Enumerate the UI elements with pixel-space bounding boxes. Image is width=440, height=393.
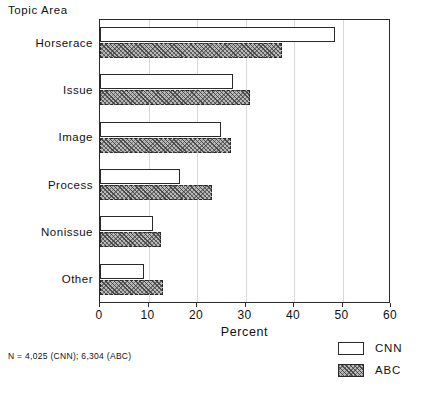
bar-cnn-image: [100, 122, 221, 137]
category-label-image: Image: [0, 130, 93, 144]
bar-group: [100, 67, 389, 114]
x-tick: [196, 303, 197, 307]
category-label-horserace: Horserace: [0, 36, 93, 50]
chart-legend: CNNABC: [338, 337, 438, 381]
bar-abc-image: [100, 138, 231, 153]
bar-cnn-horserace: [100, 27, 335, 42]
bar-abc-horserace: [100, 43, 282, 58]
white-square-icon: [338, 342, 364, 355]
x-tick: [245, 303, 246, 307]
x-tick-label-60: 60: [383, 308, 397, 322]
x-tick: [293, 303, 294, 307]
bar-cnn-issue: [100, 74, 233, 89]
bar-cnn-process: [100, 169, 180, 184]
bar-group: [100, 115, 389, 162]
x-tick: [99, 303, 100, 307]
x-tick-label-10: 10: [140, 308, 154, 322]
bar-cnn-other: [100, 264, 144, 279]
y-axis-title: Topic Area: [8, 4, 68, 16]
bar-group: [100, 20, 389, 67]
bar-group: [100, 162, 389, 209]
legend-label: CNN: [375, 342, 402, 354]
legend-item-abc[interactable]: ABC: [338, 359, 438, 381]
legend-label: ABC: [375, 364, 401, 376]
hatched-square-icon: [338, 364, 364, 377]
x-tick: [390, 303, 391, 307]
bar-group: [100, 257, 389, 304]
x-tick-label-0: 0: [95, 308, 102, 322]
bar-abc-issue: [100, 90, 250, 105]
category-label-nonissue: Nonissue: [0, 225, 93, 239]
x-tick: [148, 303, 149, 307]
legend-item-cnn[interactable]: CNN: [338, 337, 438, 359]
x-tick-label-50: 50: [334, 308, 348, 322]
category-axis-labels: HorseraceIssueImageProcessNonissueOther: [0, 19, 93, 303]
bar-abc-process: [100, 185, 212, 200]
bar-abc-other: [100, 280, 163, 295]
x-tick-label-40: 40: [286, 308, 300, 322]
x-tick: [342, 303, 343, 307]
category-label-process: Process: [0, 178, 93, 192]
category-label-other: Other: [0, 272, 93, 286]
category-label-issue: Issue: [0, 83, 93, 97]
plot-area: [99, 19, 390, 303]
bar-group: [100, 209, 389, 256]
x-tick-label-20: 20: [189, 308, 203, 322]
bar-abc-nonissue: [100, 232, 161, 247]
sample-size-footnote: N = 4,025 (CNN); 6,304 (ABC): [8, 351, 131, 361]
bar-cnn-nonissue: [100, 216, 153, 231]
x-tick-label-30: 30: [237, 308, 251, 322]
bar-series-container: [100, 20, 389, 302]
